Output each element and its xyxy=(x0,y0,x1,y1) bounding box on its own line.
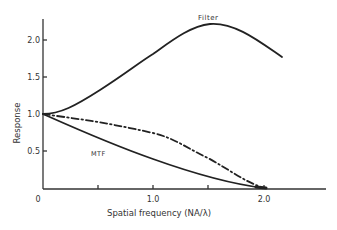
y-axis-title: Response xyxy=(12,103,22,144)
y-tick-label-1.0: 1.0 xyxy=(27,110,40,119)
origin-label: 0 xyxy=(35,195,40,204)
y-tick-label-0.5: 0.5 xyxy=(27,147,40,156)
x-axis-title: Spatial frequency (NA/λ) xyxy=(107,208,211,218)
x-tick-label-2.0: 2.0 xyxy=(258,195,271,204)
mtf-label: MTF xyxy=(91,150,106,158)
x-tick-label-1.0: 1.0 xyxy=(147,195,160,204)
mtf-curve xyxy=(43,114,264,188)
filtered-response-curve xyxy=(43,114,264,188)
curve-endpoint xyxy=(256,187,266,188)
chart: 2.0 1.5 1.0 0.5 0 1.0 2.0 Spatial freque… xyxy=(0,0,337,230)
filter-curve xyxy=(43,24,282,114)
filter-label: Filter xyxy=(198,14,218,22)
axes xyxy=(43,19,326,189)
y-tick-label-2.0: 2.0 xyxy=(27,36,40,45)
y-tick-label-1.5: 1.5 xyxy=(27,73,40,82)
